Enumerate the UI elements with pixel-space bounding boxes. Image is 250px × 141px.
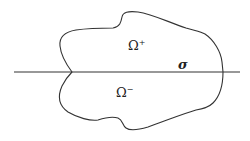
upper-region-superscript: + — [139, 38, 146, 47]
lower-region-superscript: − — [127, 85, 134, 94]
lower-region-label: Ω− — [116, 85, 133, 100]
domain-boundary — [60, 12, 223, 130]
lower-region-symbol: Ω — [116, 85, 127, 100]
diagram-canvas: Ω+ σ Ω− — [0, 0, 250, 141]
upper-region-label: Ω+ — [128, 38, 145, 53]
interface-label: σ — [178, 57, 188, 72]
upper-region-symbol: Ω — [128, 38, 139, 53]
